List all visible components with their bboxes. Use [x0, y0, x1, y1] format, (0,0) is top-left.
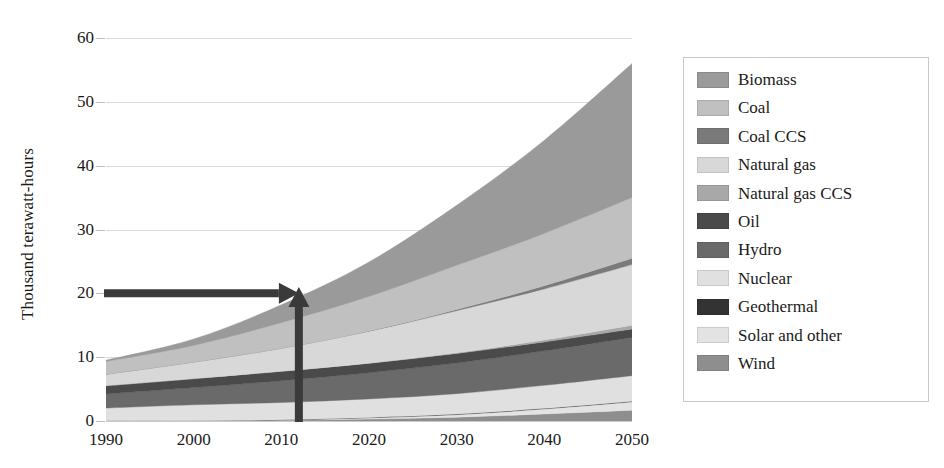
legend-swatch-icon — [697, 213, 729, 229]
legend-swatch-icon — [697, 242, 729, 258]
legend-item-geothermal[interactable]: Geothermal — [697, 294, 918, 319]
x-tick-label-1990: 1990 — [71, 430, 141, 450]
legend-swatch-icon — [697, 299, 729, 315]
legend-item-label: Natural gas CCS — [738, 185, 852, 202]
legend-item-nuclear[interactable]: Nuclear — [697, 266, 918, 291]
y-tick-stub-50 — [96, 102, 105, 103]
legend-swatch-icon — [697, 72, 729, 88]
y-tick-label-40: 40 — [48, 157, 94, 174]
y-tick-stub-10 — [96, 357, 105, 358]
x-tick-label-2050: 2050 — [597, 430, 667, 450]
legend-swatch-icon — [697, 185, 729, 201]
y-tick-label-30: 30 — [48, 221, 94, 238]
stacked-area-svg — [106, 38, 632, 421]
chart-legend: BiomassCoalCoal CCSNatural gasNatural ga… — [683, 57, 929, 402]
legend-item-wind[interactable]: Wind — [697, 351, 918, 376]
legend-item-label: Coal — [738, 99, 770, 116]
y-tick-label-50: 50 — [48, 93, 94, 110]
y-tick-stub-60 — [96, 38, 105, 39]
legend-item-natural-gas-ccs[interactable]: Natural gas CCS — [697, 181, 918, 206]
legend-item-solar-and-other[interactable]: Solar and other — [697, 323, 918, 348]
legend-item-coal-ccs[interactable]: Coal CCS — [697, 124, 918, 149]
legend-swatch-icon — [697, 355, 729, 371]
legend-item-label: Oil — [738, 213, 760, 230]
legend-item-biomass[interactable]: Biomass — [697, 67, 918, 92]
plot-wrapper — [106, 38, 632, 421]
chart-figure: Thousand terawatt-hours 0102030405060 19… — [0, 0, 944, 468]
legend-item-label: Solar and other — [738, 327, 842, 344]
y-tick-label-10: 10 — [48, 348, 94, 365]
legend-list: BiomassCoalCoal CCSNatural gasNatural ga… — [697, 67, 918, 376]
x-tick-label-2030: 2030 — [422, 430, 492, 450]
legend-swatch-icon — [697, 270, 729, 286]
x-tick-label-2010: 2010 — [246, 430, 316, 450]
stacked-area-plot — [106, 38, 632, 421]
y-tick-label-20: 20 — [48, 284, 94, 301]
y-tick-label-0: 0 — [48, 412, 94, 429]
legend-item-label: Geothermal — [738, 298, 818, 315]
y-tick-stub-0 — [96, 421, 105, 422]
legend-item-label: Natural gas — [738, 156, 816, 173]
y-tick-label-60: 60 — [48, 29, 94, 46]
x-tick-label-2040: 2040 — [509, 430, 579, 450]
legend-item-label: Wind — [738, 355, 775, 372]
y-axis-title-text: Thousand terawatt-hours — [18, 148, 38, 320]
y-tick-stub-20 — [96, 293, 105, 294]
legend-item-label: Hydro — [738, 241, 781, 258]
legend-swatch-icon — [697, 327, 729, 343]
y-tick-stub-40 — [96, 166, 105, 167]
legend-item-oil[interactable]: Oil — [697, 209, 918, 234]
legend-swatch-icon — [697, 128, 729, 144]
legend-swatch-icon — [697, 100, 729, 116]
legend-item-hydro[interactable]: Hydro — [697, 237, 918, 262]
y-axis-title: Thousand terawatt-hours — [14, 0, 42, 468]
legend-item-natural-gas[interactable]: Natural gas — [697, 152, 918, 177]
x-tick-label-2000: 2000 — [159, 430, 229, 450]
legend-item-label: Nuclear — [738, 270, 792, 287]
gridline-0 — [106, 421, 632, 422]
legend-swatch-icon — [697, 157, 729, 173]
legend-item-label: Biomass — [738, 71, 797, 88]
legend-item-coal[interactable]: Coal — [697, 95, 918, 120]
legend-item-label: Coal CCS — [738, 128, 807, 145]
x-tick-label-2020: 2020 — [334, 430, 404, 450]
y-tick-stub-30 — [96, 230, 105, 231]
